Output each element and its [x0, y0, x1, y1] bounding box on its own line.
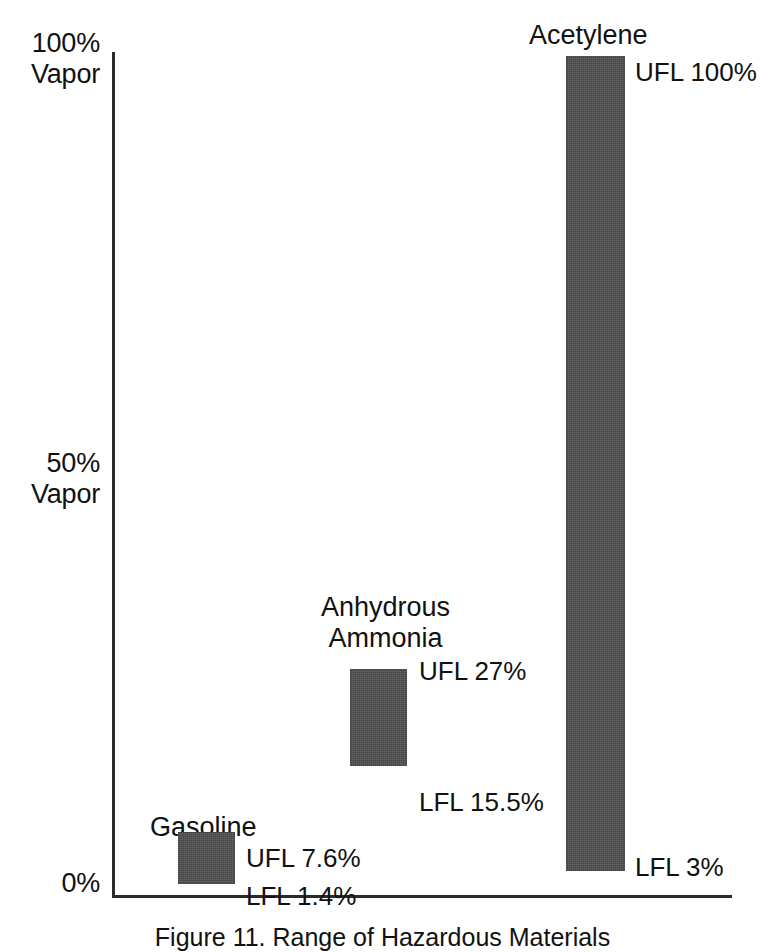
series-label-anhydrous-ammonia: Anhydrous Ammonia	[313, 592, 458, 654]
series-label-acetylene-line1: Acetylene	[529, 20, 648, 50]
y-axis-tick-0-value: 0%	[61, 868, 100, 898]
ufl-label-acetylene: UFL 100%	[635, 57, 757, 87]
bar-gasoline	[178, 832, 235, 884]
y-axis-tick-50-unit: Vapor	[0, 479, 100, 510]
figure-caption: Figure 11. Range of Hazardous Materials	[0, 922, 765, 952]
ufl-label-gasoline: UFL 7.6%	[246, 843, 361, 873]
x-axis-line	[112, 895, 732, 898]
y-axis-tick-0: 0%	[0, 868, 100, 899]
lfl-label-anhydrous-ammonia: LFL 15.5%	[419, 787, 544, 817]
lfl-label-acetylene: LFL 3%	[635, 852, 724, 882]
y-axis-tick-100: 100% Vapor	[0, 28, 100, 90]
bar-acetylene	[566, 56, 625, 871]
series-label-anhydrous-ammonia-line1: Anhydrous	[321, 592, 450, 622]
series-label-acetylene: Acetylene	[529, 20, 648, 51]
lfl-label-gasoline: LFL 1.4%	[246, 881, 356, 911]
y-axis-tick-50-value: 50%	[47, 448, 100, 478]
y-axis-line	[112, 52, 115, 898]
bar-anhydrous-ammonia	[350, 669, 407, 766]
series-label-anhydrous-ammonia-line2: Ammonia	[313, 623, 458, 654]
y-axis-tick-100-value: 100%	[32, 28, 100, 58]
y-axis-tick-50: 50% Vapor	[0, 448, 100, 510]
y-axis-tick-100-unit: Vapor	[0, 59, 100, 90]
ufl-label-anhydrous-ammonia: UFL 27%	[419, 656, 526, 686]
